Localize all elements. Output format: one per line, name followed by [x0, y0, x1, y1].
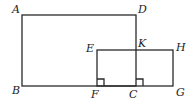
geometry-diagram: A D B C E K H F G [0, 0, 195, 105]
label-c: C [129, 88, 138, 101]
label-d: D [137, 3, 147, 16]
rectangle-efgh [97, 50, 173, 86]
label-e: E [85, 42, 94, 55]
label-h: H [175, 41, 186, 54]
label-k: K [137, 37, 147, 50]
label-f: F [90, 88, 99, 101]
label-b: B [11, 84, 20, 97]
right-angle-marker-c [136, 79, 143, 86]
right-angle-marker-f [97, 79, 104, 86]
label-a: A [11, 3, 20, 16]
label-g: G [176, 86, 185, 99]
